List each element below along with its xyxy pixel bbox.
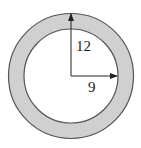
annulus-diagram: 12 9 — [0, 0, 141, 148]
outer-radius-label: 12 — [76, 38, 91, 54]
inner-radius-label: 9 — [88, 79, 96, 95]
